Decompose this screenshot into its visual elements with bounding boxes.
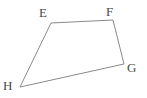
vertex-label-h: H (3, 79, 12, 92)
vertex-label-e: E (39, 6, 47, 19)
vertex-label-f: F (106, 5, 113, 18)
vertex-label-g: G (127, 61, 136, 74)
quadrilateral-drawing (0, 0, 147, 98)
quadrilateral-efgh-outline (20, 20, 124, 87)
geometry-figure: E F G H (0, 0, 147, 98)
